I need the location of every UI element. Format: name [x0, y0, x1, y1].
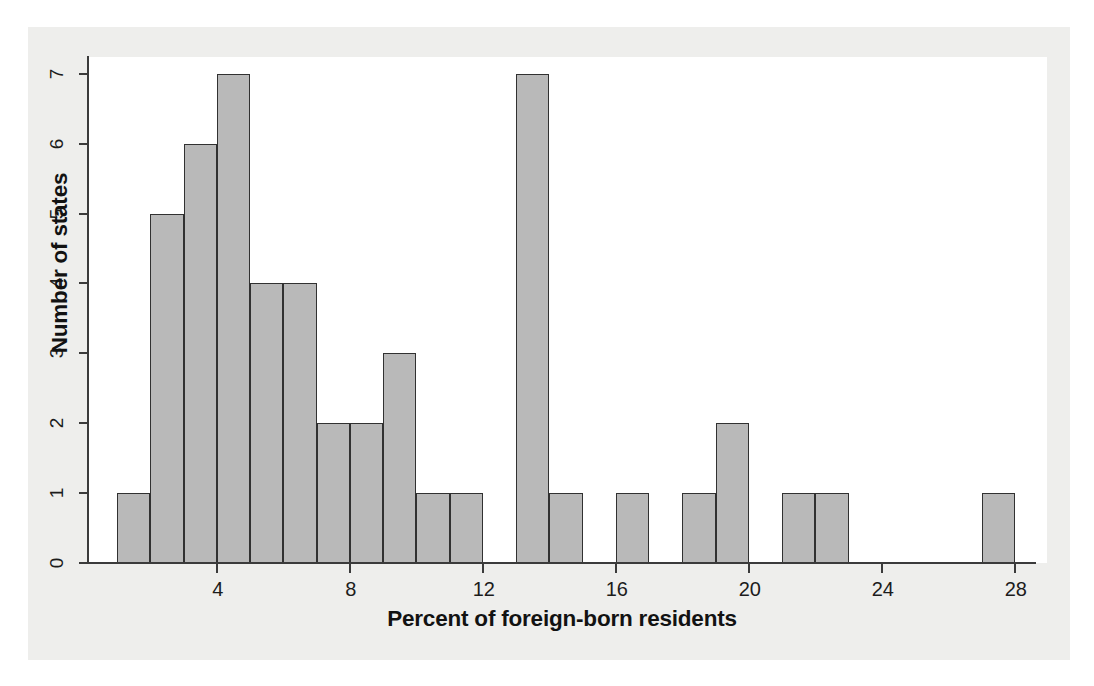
histogram-figure: 01234567 481216202428 Number of states P…: [0, 0, 1094, 686]
histogram-bar: [450, 493, 483, 563]
y-axis-tick: [79, 422, 88, 424]
histogram-bar: [616, 493, 649, 563]
y-axis-tick: [79, 562, 88, 564]
histogram-bar: [782, 493, 815, 563]
x-axis-tick-label: 8: [329, 578, 373, 601]
histogram-bar: [117, 493, 150, 563]
histogram-bar: [150, 214, 183, 564]
histogram-bar: [516, 74, 549, 563]
histogram-bar: [416, 493, 449, 563]
x-axis-tick: [881, 563, 883, 573]
x-axis-tick-label: 16: [595, 578, 639, 601]
histogram-bar: [815, 493, 848, 563]
x-axis-tick-label: 4: [196, 578, 240, 601]
histogram-bar: [716, 423, 749, 563]
x-axis-tick: [1014, 563, 1016, 573]
y-axis-tick: [79, 352, 88, 354]
y-axis-tick-label: 0: [46, 542, 68, 584]
y-axis-tick: [79, 492, 88, 494]
histogram-bar: [350, 423, 383, 563]
histogram-bar: [682, 493, 715, 563]
histogram-bar: [217, 74, 250, 563]
x-axis-tick: [216, 563, 218, 573]
histogram-bar: [250, 283, 283, 563]
y-axis-title: Number of states: [47, 143, 73, 383]
histogram-bar: [317, 423, 350, 563]
x-axis-tick-label: 28: [994, 578, 1038, 601]
x-axis-tick: [748, 563, 750, 573]
x-axis-tick: [615, 563, 617, 573]
y-axis-tick: [79, 282, 88, 284]
histogram-bar: [982, 493, 1015, 563]
x-axis-tick: [482, 563, 484, 573]
histogram-bar: [383, 353, 416, 563]
histogram-bar: [549, 493, 582, 563]
histogram-bar: [184, 144, 217, 563]
x-axis-line: [88, 562, 1036, 564]
y-axis-tick-label: 7: [46, 53, 68, 95]
x-axis-tick-label: 24: [861, 578, 905, 601]
y-axis-tick: [79, 143, 88, 145]
y-axis-tick: [79, 213, 88, 215]
y-axis-line: [87, 56, 89, 564]
y-axis-tick-label: 2: [46, 402, 68, 444]
x-axis-tick: [349, 563, 351, 573]
histogram-bar: [283, 283, 316, 563]
x-axis-title: Percent of foreign-born residents: [88, 606, 1036, 632]
x-axis-tick-label: 20: [728, 578, 772, 601]
x-axis-tick-label: 12: [462, 578, 506, 601]
y-axis-tick: [79, 73, 88, 75]
y-axis-tick-label: 1: [46, 472, 68, 514]
